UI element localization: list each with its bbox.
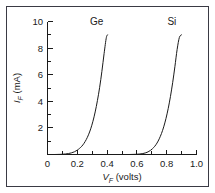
axes-group	[48, 22, 197, 155]
x-tick-label-1p0: 1.0	[190, 158, 203, 169]
y-axis-title: IF (mA)	[11, 73, 24, 103]
y-tick-label-10: 10	[32, 16, 43, 27]
y-axis-major-ticks	[48, 22, 53, 128]
x-tick-label-0p8: 0.8	[160, 158, 173, 169]
y-axis-tick-labels: 10 8 6 4 2	[32, 16, 43, 133]
series-label-si: Si	[167, 16, 176, 27]
curve-ge	[55, 35, 108, 155]
diode-iv-chart: 10 8 6 4 2 0 0.2 0.4 0.6 0.8 1.0 VF (vol…	[0, 0, 215, 193]
data-curves	[55, 35, 182, 155]
y-axis-title-units: (mA)	[11, 73, 22, 94]
series-labels: Ge Si	[90, 16, 176, 27]
x-tick-label-0p4: 0.4	[100, 158, 113, 169]
series-label-ge: Ge	[90, 16, 104, 27]
x-tick-label-0: 0	[45, 158, 50, 169]
y-tick-label-2: 2	[38, 122, 43, 133]
figure-container: 10 8 6 4 2 0 0.2 0.4 0.6 0.8 1.0 VF (vol…	[0, 0, 215, 193]
y-tick-label-6: 6	[38, 69, 43, 80]
y-tick-label-4: 4	[38, 96, 43, 107]
x-tick-label-0p2: 0.2	[71, 158, 84, 169]
x-tick-label-0p6: 0.6	[130, 158, 143, 169]
x-axis-tick-labels: 0 0.2 0.4 0.6 0.8 1.0	[45, 158, 203, 169]
x-axis-title: VF (volts)	[102, 171, 141, 184]
y-tick-label-8: 8	[38, 43, 43, 54]
x-axis-title-units: (volts)	[116, 171, 142, 182]
curve-si	[129, 35, 181, 155]
